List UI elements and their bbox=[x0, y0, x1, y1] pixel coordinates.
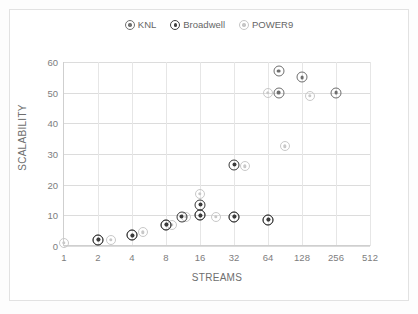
data-point-power9 bbox=[263, 88, 273, 98]
gridline-horizontal bbox=[64, 62, 370, 63]
y-tick-label: 50 bbox=[47, 87, 58, 98]
x-axis-title: STREAMS bbox=[64, 272, 370, 283]
data-point-power9 bbox=[138, 227, 148, 237]
legend-label-knl: KNL bbox=[138, 20, 156, 30]
legend-marker-power9-icon bbox=[239, 20, 249, 30]
data-point-power9 bbox=[240, 161, 250, 171]
x-tick-label: 16 bbox=[195, 252, 206, 263]
gridline-vertical bbox=[132, 62, 133, 246]
y-tick-label: 20 bbox=[47, 179, 58, 190]
data-point-broadwell bbox=[161, 219, 172, 230]
x-tick-label: 4 bbox=[129, 252, 134, 263]
data-point-power9 bbox=[59, 238, 69, 248]
x-tick-label: 2 bbox=[95, 252, 100, 263]
gridline-vertical bbox=[302, 62, 303, 246]
gridline-horizontal bbox=[64, 123, 370, 124]
legend-marker-knl-icon bbox=[125, 20, 135, 30]
data-point-knl bbox=[297, 72, 308, 83]
gridline-horizontal bbox=[64, 93, 370, 94]
gridline-vertical bbox=[98, 62, 99, 246]
y-axis-title: SCALABILITY bbox=[17, 78, 28, 198]
data-point-power9 bbox=[280, 141, 290, 151]
x-tick-label: 256 bbox=[328, 252, 344, 263]
y-tick-label: 0 bbox=[53, 241, 58, 252]
data-point-broadwell bbox=[229, 159, 240, 170]
chart-legend: KNL Broadwell POWER9 bbox=[0, 20, 418, 30]
gridline-vertical bbox=[370, 62, 371, 246]
y-tick-label: 30 bbox=[47, 149, 58, 160]
y-tick-label: 10 bbox=[47, 210, 58, 221]
x-axis-line bbox=[63, 245, 370, 246]
x-tick-label: 32 bbox=[229, 252, 240, 263]
x-tick-label: 512 bbox=[362, 252, 378, 263]
x-axis-tick-labels: 1248163264128256512 bbox=[64, 252, 370, 266]
gridline-horizontal bbox=[64, 154, 370, 155]
data-point-broadwell bbox=[263, 214, 274, 225]
data-point-power9 bbox=[305, 91, 315, 101]
data-point-broadwell bbox=[229, 211, 240, 222]
data-point-power9 bbox=[211, 212, 221, 222]
y-axis-tick-labels: 0102030405060 bbox=[34, 62, 58, 246]
legend-item-power9[interactable]: POWER9 bbox=[239, 20, 293, 30]
legend-item-broadwell[interactable]: Broadwell bbox=[170, 20, 225, 30]
data-point-broadwell bbox=[93, 234, 104, 245]
gridline-horizontal bbox=[64, 185, 370, 186]
legend-label-power9: POWER9 bbox=[252, 20, 293, 30]
data-point-knl bbox=[273, 66, 284, 77]
scatter-chart-figure: KNL Broadwell POWER9 0102030405060 12481… bbox=[0, 0, 418, 314]
x-tick-label: 1 bbox=[61, 252, 66, 263]
x-tick-label: 8 bbox=[163, 252, 168, 263]
y-tick-label: 60 bbox=[47, 57, 58, 68]
legend-item-knl[interactable]: KNL bbox=[125, 20, 156, 30]
plot-area bbox=[64, 62, 370, 246]
data-point-knl bbox=[331, 87, 342, 98]
data-point-knl bbox=[273, 87, 284, 98]
data-point-broadwell bbox=[195, 210, 206, 221]
y-tick-label: 40 bbox=[47, 118, 58, 129]
legend-marker-broadwell-icon bbox=[170, 20, 180, 30]
x-tick-label: 64 bbox=[263, 252, 274, 263]
data-point-power9 bbox=[106, 235, 116, 245]
y-axis-line bbox=[63, 62, 64, 246]
data-point-broadwell bbox=[176, 211, 187, 222]
data-point-power9 bbox=[195, 189, 205, 199]
legend-label-broadwell: Broadwell bbox=[183, 20, 225, 30]
data-point-broadwell bbox=[127, 230, 138, 241]
x-tick-label: 128 bbox=[294, 252, 310, 263]
data-point-broadwell bbox=[195, 199, 206, 210]
gridline-horizontal bbox=[64, 246, 370, 247]
